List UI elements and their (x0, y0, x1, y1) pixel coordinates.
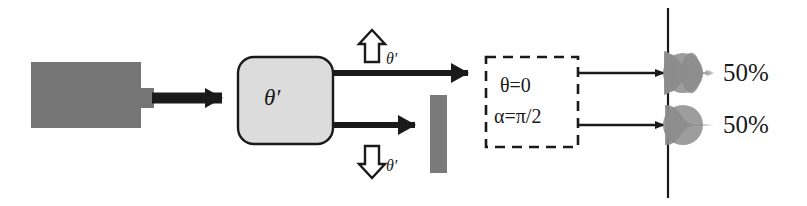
outcome-top-percent: 50% (723, 60, 769, 85)
beam-blocker-bar (430, 95, 447, 173)
theta-prime-analyzer (238, 57, 333, 144)
detection-blob-top (663, 51, 714, 95)
outcome-bottom-percent: 50% (723, 112, 769, 137)
stern-gerlach-beam-splitter-diagram: θ′ θ′ θ′ θ=0 α=π/2 50% 50% (0, 0, 807, 206)
hollow-up-arrow-icon (359, 30, 385, 62)
hollow-down-arrow-icon (359, 146, 385, 178)
measurement-alpha-value: α=π/2 (494, 106, 541, 126)
measurement-settings-box (486, 57, 578, 147)
measurement-theta-value: θ=0 (500, 75, 531, 95)
particle-source (31, 62, 154, 128)
detection-blob-bottom (663, 105, 714, 145)
down-channel-subscript: θ′ (386, 158, 397, 174)
analyzer-label: θ′ (264, 86, 280, 109)
up-channel-subscript: θ′ (386, 51, 397, 67)
